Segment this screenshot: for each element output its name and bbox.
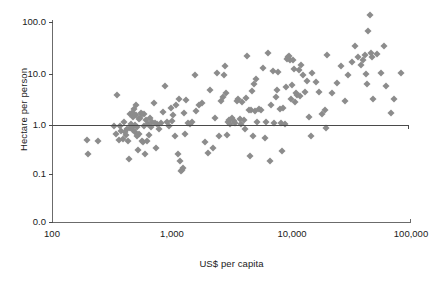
data-point-marker — [387, 109, 394, 116]
data-point-marker — [152, 144, 159, 151]
reference-line-one-hectare — [52, 125, 409, 126]
data-point-marker — [275, 68, 282, 75]
data-point-marker — [244, 53, 251, 60]
data-point-marker — [207, 87, 214, 94]
data-point-marker — [309, 69, 316, 76]
data-point-marker — [161, 83, 168, 90]
data-point-marker — [272, 94, 279, 101]
data-point-marker — [329, 89, 336, 96]
scatter-chart-figure: Hectare per person US$ per capita 100.01… — [0, 0, 437, 282]
data-point-marker — [266, 158, 273, 165]
data-point-marker — [125, 155, 132, 162]
data-point-marker — [221, 72, 228, 79]
data-point-marker — [171, 133, 178, 140]
data-point-marker — [181, 131, 188, 138]
data-point-marker — [136, 130, 143, 137]
data-point-marker — [249, 87, 256, 94]
data-point-marker — [160, 108, 167, 115]
data-point-marker — [377, 69, 384, 76]
data-point-marker — [366, 11, 373, 18]
data-point-marker — [390, 96, 397, 103]
data-point-marker — [84, 150, 91, 157]
data-point-marker — [397, 69, 404, 76]
data-point-marker — [204, 149, 211, 156]
data-point-marker — [362, 70, 369, 77]
data-point-marker — [114, 91, 121, 98]
data-point-marker — [246, 152, 253, 159]
data-point-marker — [201, 139, 208, 146]
data-point-marker — [345, 71, 352, 78]
data-point-marker — [307, 133, 314, 140]
data-point-marker — [268, 101, 275, 108]
data-point-marker — [135, 146, 142, 153]
reference-line-end-cap — [408, 125, 409, 129]
data-point-marker — [222, 63, 229, 70]
data-point-marker — [383, 82, 390, 89]
data-point-marker — [180, 109, 187, 116]
data-point-marker — [337, 63, 344, 70]
plot-area — [0, 0, 437, 282]
data-point-marker — [303, 77, 310, 84]
data-point-marker — [292, 99, 299, 106]
data-point-marker — [125, 138, 132, 145]
data-point-marker — [341, 97, 348, 104]
data-point-marker — [142, 150, 149, 157]
data-point-marker — [156, 125, 163, 132]
data-point-marker — [279, 148, 286, 155]
data-point-marker — [216, 133, 223, 140]
data-point-marker — [183, 96, 190, 103]
data-point-marker — [259, 64, 266, 71]
data-point-marker — [274, 87, 281, 94]
data-point-marker — [348, 59, 355, 66]
data-point-marker — [191, 71, 198, 78]
data-point-marker — [289, 82, 296, 89]
data-point-marker — [258, 107, 265, 114]
data-point-marker — [95, 137, 102, 144]
data-point-marker — [290, 57, 297, 64]
data-point-marker — [223, 131, 230, 138]
data-point-marker — [381, 43, 388, 50]
data-point-marker — [83, 136, 90, 143]
data-point-marker — [146, 131, 153, 138]
data-point-marker — [351, 43, 358, 50]
data-point-marker — [261, 134, 268, 141]
data-point-marker — [305, 113, 312, 120]
data-point-marker — [150, 100, 157, 107]
data-point-marker — [312, 79, 319, 86]
data-point-marker — [369, 96, 376, 103]
data-point-marker — [241, 125, 248, 132]
data-point-marker — [250, 133, 257, 140]
data-point-marker — [174, 150, 181, 157]
data-point-marker — [365, 28, 372, 35]
data-point-marker — [333, 80, 340, 87]
data-point-marker — [211, 115, 218, 122]
data-point-marker — [265, 49, 272, 56]
data-point-marker — [315, 88, 322, 95]
data-point-marker — [324, 52, 331, 59]
data-point-marker — [364, 80, 371, 87]
